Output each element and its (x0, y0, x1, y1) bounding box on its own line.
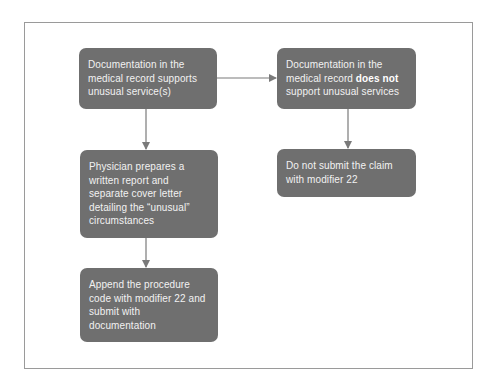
node-text: Append the procedure code with modifier … (89, 279, 205, 331)
node-text-bold: does not (356, 73, 398, 84)
node-physician-prepares-report: Physician prepares a written report and … (80, 150, 218, 238)
node-documentation-supports: Documentation in the medical record supp… (79, 48, 217, 109)
node-text: Physician prepares a written report and … (89, 161, 190, 226)
node-documentation-does-not-support: Documentation in the medical record does… (277, 48, 416, 109)
node-text: Do not submit the claim with modifier 22 (286, 160, 393, 185)
node-text-after: support unusual services (286, 86, 399, 97)
node-append-modifier-22: Append the procedure code with modifier … (80, 268, 218, 342)
node-text: Documentation in the medical record supp… (88, 59, 197, 97)
node-do-not-submit: Do not submit the claim with modifier 22 (277, 149, 416, 197)
